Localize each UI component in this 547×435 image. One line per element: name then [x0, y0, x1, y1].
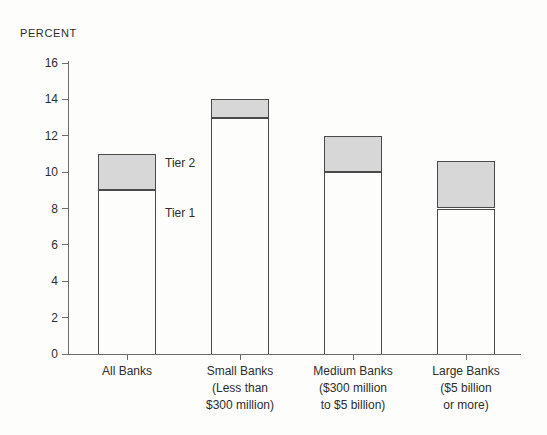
tier1-annotation: Tier 1: [165, 206, 195, 220]
tier2-annotation: Tier 2: [165, 156, 195, 170]
y-axis-tick-label: 10: [28, 165, 58, 179]
bar-segment-tier2: [98, 154, 156, 190]
x-axis-tick: [240, 355, 241, 360]
y-axis-tick-label: 16: [28, 56, 58, 70]
bar-segment-tier1: [98, 190, 156, 354]
y-axis-tick-label: 4: [28, 274, 58, 288]
y-axis-tick: [62, 63, 68, 64]
bar-segment-tier2: [211, 99, 269, 117]
y-axis-tick: [62, 172, 68, 173]
y-axis-tick: [62, 281, 68, 282]
category-label-line: or more): [396, 397, 536, 414]
y-axis-tick-label: 6: [28, 238, 58, 252]
y-axis-tick-label: 14: [28, 92, 58, 106]
y-axis-tick: [62, 244, 68, 245]
bar-segment-tier2: [437, 161, 495, 208]
y-axis-tick-label: 12: [28, 129, 58, 143]
y-axis-tick-label: 8: [28, 202, 58, 216]
x-axis-line: [68, 354, 521, 355]
bar-segment-tier1: [211, 118, 269, 354]
y-axis-tick: [62, 317, 68, 318]
y-axis-tick-label: 0: [28, 347, 58, 361]
x-axis-tick: [353, 355, 354, 360]
y-axis-tick: [62, 99, 68, 100]
stacked-bar-chart-bank-capital-ratios: PERCENT 0246810121416All BanksSmall Bank…: [0, 0, 547, 435]
x-axis-tick: [127, 355, 128, 360]
category-label: Large Banks($5 billionor more): [396, 363, 536, 414]
bar-segment-tier2: [324, 136, 382, 172]
category-label-line: ($5 billion: [396, 380, 536, 397]
y-axis-title: PERCENT: [20, 27, 77, 39]
category-label-line: Large Banks: [396, 363, 536, 380]
y-axis-tick: [62, 135, 68, 136]
y-axis-tick-label: 2: [28, 311, 58, 325]
y-axis-line: [68, 61, 69, 354]
bar-segment-tier1: [324, 172, 382, 354]
bar-segment-tier1: [437, 209, 495, 355]
y-axis-tick: [62, 208, 68, 209]
x-axis-tick: [466, 355, 467, 360]
y-axis-tick: [62, 354, 68, 355]
